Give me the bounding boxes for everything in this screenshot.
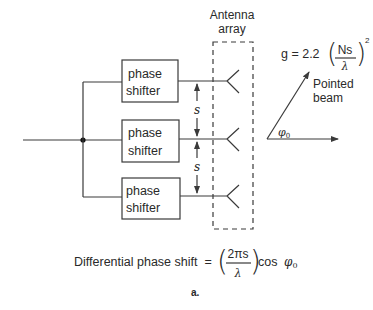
phase-shifter-label-line1: phase bbox=[128, 67, 162, 81]
gain-formula-lhs: g = 2.2 bbox=[281, 47, 320, 61]
gain-exponent: 2 bbox=[365, 36, 370, 45]
gain-denominator: λ bbox=[341, 60, 349, 73]
phase-formula-angle: φ0 bbox=[284, 255, 298, 270]
phased-array-diagram: phase shifter phase shifter phase shifte… bbox=[0, 0, 373, 310]
antenna-label-line2: array bbox=[218, 22, 245, 36]
spacing-label: s bbox=[194, 160, 200, 174]
antenna-element-icon bbox=[227, 70, 239, 93]
phase-formula-lhs: Differential phase shift = bbox=[74, 255, 212, 269]
spacing-label: s bbox=[194, 103, 200, 117]
phase-shifter-label-line2: shifter bbox=[128, 144, 162, 158]
beam-angle-symbol: φ0 bbox=[278, 126, 290, 140]
gain-numerator: Ns bbox=[338, 43, 353, 57]
panel-label: a. bbox=[191, 287, 200, 298]
antenna-element-icon bbox=[227, 185, 239, 208]
phase-shifter-label-line1: phase bbox=[128, 126, 162, 140]
phase-numerator: 2πs bbox=[228, 247, 249, 261]
phase-denominator: λ bbox=[234, 267, 242, 280]
beam-label-line1: Pointed bbox=[313, 77, 354, 91]
antenna-label-line1: Antenna bbox=[210, 8, 255, 22]
phase-shift-formula: Differential phase shift = ( 2πs λ ) cos… bbox=[74, 245, 298, 280]
pointed-beam-arrow bbox=[267, 72, 309, 139]
phase-shifter-1: phase shifter bbox=[122, 60, 178, 102]
left-paren: ( bbox=[217, 245, 228, 278]
left-paren: ( bbox=[327, 38, 337, 68]
phase-shifter-label-line1: phase bbox=[126, 184, 160, 198]
antenna-array-outline bbox=[213, 42, 253, 229]
antenna-element-icon bbox=[227, 128, 239, 151]
phase-shifter-3: phase shifter bbox=[122, 178, 180, 219]
phase-shifter-label-line2: shifter bbox=[126, 201, 160, 215]
phase-shifter-label-line2: shifter bbox=[126, 84, 160, 98]
phase-formula-cos: cos bbox=[258, 255, 277, 269]
beam-label-line2: beam bbox=[313, 91, 343, 105]
gain-formula: g = 2.2 ( Ns λ ) 2 bbox=[281, 36, 370, 73]
phase-shifter-2: phase shifter bbox=[122, 120, 179, 162]
